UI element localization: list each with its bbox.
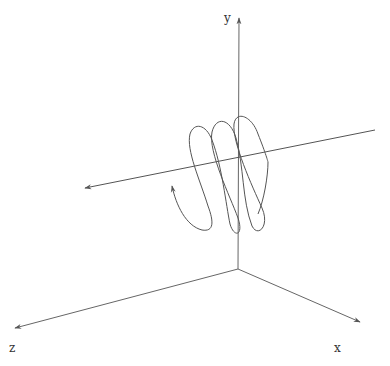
y-axis-label: y — [223, 11, 231, 25]
helix-curve — [172, 116, 268, 233]
coordinate-axes — [15, 18, 360, 328]
z-axis-label: z — [9, 341, 15, 355]
z-axis — [15, 269, 238, 328]
x-axis — [238, 269, 360, 322]
helix-axis-line — [85, 130, 375, 188]
helix-3d-diagram: y z x — [0, 0, 390, 366]
x-axis-label: x — [334, 341, 341, 355]
